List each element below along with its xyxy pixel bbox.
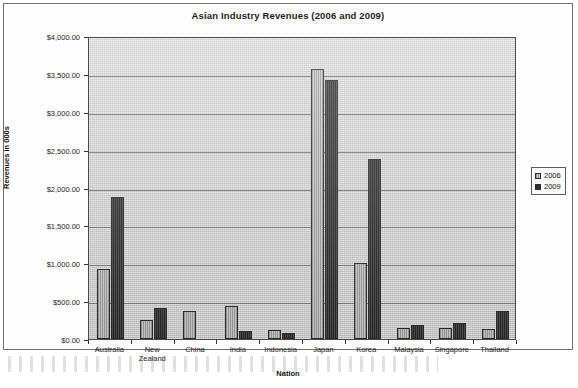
- legend-label: 2006: [544, 171, 561, 180]
- gridline: [89, 190, 515, 191]
- y-axis-tick-label: $1,000.00: [47, 260, 80, 269]
- bar-2009-indonesia: [282, 333, 295, 339]
- y-axis-tick-mark: [84, 264, 88, 265]
- y-axis-tick-label: $1,500.00: [47, 222, 80, 231]
- bar-2009-new-zealand: [154, 308, 167, 339]
- bar-2009-malaysia: [411, 325, 424, 339]
- y-axis-tick-label: $3,000.00: [47, 108, 80, 117]
- x-axis-label: China: [174, 345, 217, 354]
- legend-swatch-2009: [535, 184, 541, 190]
- x-axis-tick-mark: [216, 340, 217, 344]
- plot-area: [88, 37, 516, 340]
- y-axis-tick-mark: [84, 302, 88, 303]
- bar-2006-india: [225, 306, 238, 339]
- y-axis-tick-mark: [84, 113, 88, 114]
- x-axis-tick-mark: [259, 340, 260, 344]
- x-axis-label: Indonesia: [259, 345, 302, 354]
- bar-2006-malaysia: [397, 328, 410, 339]
- bar-2006-thailand: [482, 329, 495, 339]
- y-axis-tick-mark: [84, 151, 88, 152]
- scan-artifact: [8, 356, 438, 372]
- bar-2006-korea: [354, 263, 367, 340]
- y-axis-tick-mark: [84, 37, 88, 38]
- x-axis-tick-mark: [174, 340, 175, 344]
- bar-2009-singapore: [453, 323, 466, 339]
- y-axis-title: Revenues in 000s: [2, 126, 11, 189]
- x-axis-tick-mark: [388, 340, 389, 344]
- x-axis-label: Malaysia: [388, 345, 431, 354]
- bar-2006-indonesia: [268, 330, 281, 339]
- x-axis-label: Australia: [88, 345, 131, 354]
- chart-title: Asian Industry Revenues (2006 and 2009): [4, 10, 572, 21]
- x-axis-label: Singapore: [430, 345, 473, 354]
- bar-2009-australia: [111, 197, 124, 339]
- legend-item-2009: 2009: [535, 182, 561, 191]
- y-axis-tick-label: $500.00: [53, 298, 80, 307]
- x-axis-label: Korea: [345, 345, 388, 354]
- legend-item-2006: 2006: [535, 171, 561, 180]
- gridline: [89, 114, 515, 115]
- bar-2006-singapore: [439, 328, 452, 339]
- x-axis-tick-mark: [302, 340, 303, 344]
- x-axis-tick-mark: [88, 340, 89, 344]
- y-axis-tick-label: $0.00: [61, 336, 80, 345]
- bar-2009-thailand: [496, 311, 509, 339]
- legend-swatch-2006: [535, 173, 541, 179]
- bar-2006-china: [183, 311, 196, 339]
- gridline: [89, 265, 515, 266]
- x-axis-tick-mark: [516, 340, 517, 344]
- x-axis-tick-mark: [345, 340, 346, 344]
- y-axis-tick-mark: [84, 226, 88, 227]
- y-axis-tick-label: $4,000.00: [47, 33, 80, 42]
- bar-2009-japan: [325, 80, 338, 339]
- x-axis-tick-mark: [430, 340, 431, 344]
- y-axis-tick-label: $2,500.00: [47, 146, 80, 155]
- gridline: [89, 303, 515, 304]
- x-axis-label: Japan: [302, 345, 345, 354]
- chart-legend: 20062009: [531, 167, 566, 195]
- y-axis-tick-label: $2,000.00: [47, 184, 80, 193]
- y-axis-tick-label: $3,500.00: [47, 70, 80, 79]
- bar-2009-korea: [368, 159, 381, 339]
- gridline: [89, 76, 515, 77]
- y-axis-tick-mark: [84, 189, 88, 190]
- bar-2006-australia: [97, 269, 110, 339]
- gridline: [89, 152, 515, 153]
- x-axis-tick-mark: [131, 340, 132, 344]
- x-axis-label: Thailand: [473, 345, 516, 354]
- x-axis-tick-mark: [473, 340, 474, 344]
- legend-label: 2009: [544, 182, 561, 191]
- bar-2006-new-zealand: [140, 320, 153, 339]
- bar-2009-india: [239, 331, 252, 339]
- document-frame: Asian Industry Revenues (2006 and 2009) …: [3, 3, 573, 350]
- y-axis-tick-mark: [84, 75, 88, 76]
- x-axis-label: India: [216, 345, 259, 354]
- gridline: [89, 227, 515, 228]
- bar-2006-japan: [311, 69, 324, 339]
